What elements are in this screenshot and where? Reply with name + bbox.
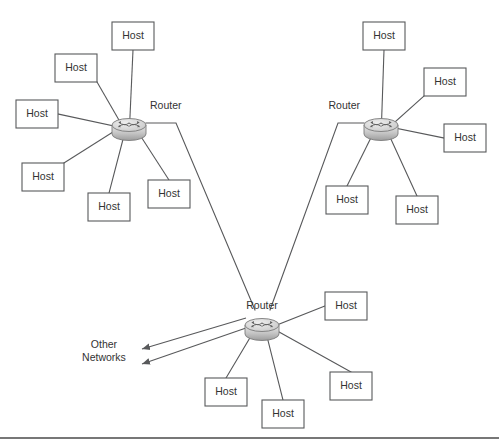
host-layer: HostHostHostHostHostHostHostHostHostHost… xyxy=(16,22,486,428)
network-diagram-canvas: HostHostHostHostHostHostHostHostHostHost… xyxy=(0,0,499,447)
router-label: Router xyxy=(328,99,360,111)
router-label: Router xyxy=(150,99,182,111)
link-left-center xyxy=(146,123,255,310)
host-label: Host xyxy=(158,187,180,199)
host-label: Host xyxy=(98,200,120,212)
host-link-host-c2 xyxy=(226,333,253,378)
host-node[interactable]: Host xyxy=(88,193,130,221)
router-icon[interactable] xyxy=(112,119,146,141)
host-link-host-l3 xyxy=(58,114,114,126)
host-link-host-l6 xyxy=(138,133,169,180)
host-label: Host xyxy=(336,193,358,205)
host-link-host-r3 xyxy=(396,128,444,138)
router-icon[interactable] xyxy=(364,119,398,141)
host-label: Host xyxy=(434,75,456,87)
router-icon[interactable] xyxy=(245,319,279,341)
network-diagram-svg: HostHostHostHostHostHostHostHostHostHost… xyxy=(0,0,499,447)
host-node[interactable]: Host xyxy=(112,22,154,50)
host-link-host-c4 xyxy=(276,330,351,372)
host-label: Host xyxy=(122,29,144,41)
other-networks-label-line-1: Other xyxy=(91,338,118,350)
host-link-host-l5 xyxy=(109,134,124,193)
host-label: Host xyxy=(373,29,395,41)
host-label: Host xyxy=(65,61,87,73)
host-node[interactable]: Host xyxy=(55,54,97,82)
host-node[interactable]: Host xyxy=(22,163,64,191)
host-link-host-r1 xyxy=(382,50,384,120)
host-link-host-c1 xyxy=(277,306,325,325)
host-label: Host xyxy=(26,107,48,119)
host-node[interactable]: Host xyxy=(205,378,247,406)
host-node[interactable]: Host xyxy=(396,196,438,224)
host-node[interactable]: Host xyxy=(16,100,58,128)
host-node[interactable]: Host xyxy=(148,180,190,208)
host-label: Host xyxy=(340,379,362,391)
host-node[interactable]: Host xyxy=(325,292,367,320)
host-node[interactable]: Host xyxy=(330,372,372,400)
host-node[interactable]: Host xyxy=(424,68,466,96)
host-link-host-r2 xyxy=(394,96,424,123)
host-node[interactable]: Host xyxy=(444,124,486,152)
host-link-host-c3 xyxy=(266,334,283,400)
host-node[interactable]: Host xyxy=(326,186,368,214)
router-label: Router xyxy=(246,299,278,311)
host-node[interactable]: Host xyxy=(262,400,304,428)
host-node[interactable]: Host xyxy=(363,22,405,50)
host-link-host-l1 xyxy=(130,50,133,120)
host-link-host-r5 xyxy=(388,133,417,196)
host-label: Host xyxy=(272,407,294,419)
host-label: Host xyxy=(454,131,476,143)
host-label: Host xyxy=(406,203,428,215)
host-link-host-r4 xyxy=(347,133,373,186)
host-link-host-l4 xyxy=(64,131,115,163)
host-label: Host xyxy=(32,170,54,182)
host-link-host-l2 xyxy=(97,82,120,122)
link-right-center xyxy=(270,123,364,310)
wan-arrow-layer xyxy=(142,318,246,364)
host-label: Host xyxy=(215,385,237,397)
host-label: Host xyxy=(335,299,357,311)
other-networks-label-line-2: Networks xyxy=(82,351,126,363)
